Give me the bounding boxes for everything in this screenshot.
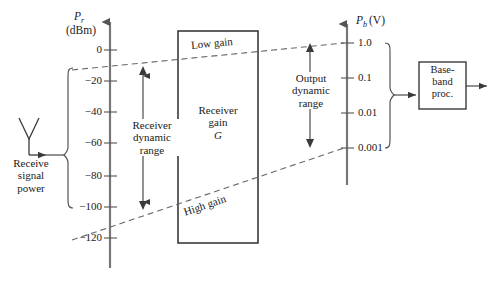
baseband-line-1: Base- [419,64,466,76]
left-tick-minus60: −60 [62,136,102,148]
right-axis-title: Pb(V) [356,14,385,30]
left-axis-symbol: P [74,10,81,22]
odr-line-3: range [283,97,339,109]
odr-line-2: dynamic [283,84,339,96]
rdr-line-1: Receiver [118,119,186,131]
receiver-gain-symbol: G [178,129,258,141]
left-tick-minus120: −120 [56,231,102,243]
baseband-proc-label: Base- band proc. [419,64,466,99]
receiver-gain-label: Receiver gain G [178,104,258,141]
right-tick-1: 1.0 [358,36,402,48]
receiver-gain-line-2: gain [178,116,258,128]
left-tick-minus40: −40 [62,105,102,117]
right-axis-symbol: P [356,14,363,26]
left-tick-minus80: −80 [62,169,102,181]
receive-line-2: signal [0,169,62,181]
receive-line-3: power [0,182,62,194]
receiver-gain-line-1: Receiver [178,104,258,116]
rdr-line-2: dynamic [118,131,186,143]
high-gain-line [72,148,344,240]
right-tick-0p001: 0.001 [358,141,406,153]
left-tick-minus100: −100 [56,200,102,212]
left-axis-unit: (dBm) [66,24,96,37]
odr-line-1: Output [283,72,339,84]
rdr-line-3: range [118,144,186,156]
left-tick-0: 0 [62,43,102,55]
baseband-line-3: proc. [419,88,466,100]
left-tick-minus20: −20 [62,74,102,86]
receive-line-1: Receive [0,157,62,169]
right-brace [385,43,394,148]
left-axis [104,22,117,268]
baseband-line-2: band [419,76,466,88]
receiver-dynamic-range-figure: Pr (dBm) 0 −20 −40 −60 −80 −100 −120 Pb(… [0,0,493,281]
right-axis-subscript: b [363,20,367,29]
antenna-icon [19,118,46,155]
right-tick-0p1: 0.1 [358,71,402,83]
receiver-dynamic-range-label: Receiver dynamic range [118,119,186,156]
output-dynamic-range-label: Output dynamic range [283,72,339,109]
right-tick-0p01: 0.01 [358,106,402,118]
receive-signal-power-label: Receive signal power [0,157,62,194]
right-axis [341,24,354,185]
right-axis-unit: (V) [369,14,385,26]
